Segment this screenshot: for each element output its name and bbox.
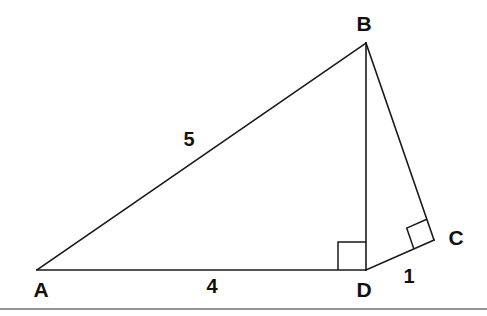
vertex-label-A: A xyxy=(33,279,48,300)
length-label-AB: 5 xyxy=(183,129,194,149)
length-label-DC: 1 xyxy=(403,266,414,286)
length-label-AD: 4 xyxy=(206,276,217,296)
vertex-label-B: B xyxy=(356,13,371,34)
segment-BC xyxy=(366,43,434,240)
geometry-figure: A B C D 5 4 1 xyxy=(0,0,487,316)
vertex-label-C: C xyxy=(448,227,463,248)
segment-DC xyxy=(366,240,434,270)
vertex-label-D: D xyxy=(356,279,371,300)
segment-AB xyxy=(37,43,366,270)
right-angle-marker-D xyxy=(338,242,366,270)
